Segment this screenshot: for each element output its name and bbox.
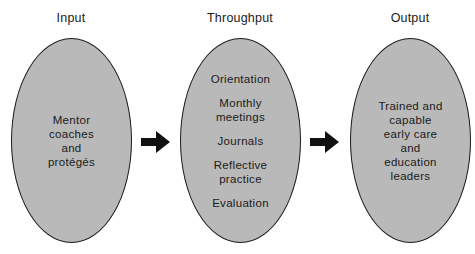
output-line: Trained and	[378, 99, 442, 113]
input-line: protégés	[48, 155, 95, 169]
output-line: early care	[384, 127, 438, 141]
output-line: capable	[389, 113, 431, 127]
throughput-item-journals: Journals	[218, 134, 264, 148]
input-line: Mentor	[53, 113, 91, 127]
output-title: Output	[345, 11, 475, 25]
item-text: Reflective	[214, 158, 268, 172]
item-text: Evaluation	[212, 196, 269, 210]
input-title: Input	[6, 11, 136, 25]
item-text: practice	[214, 172, 268, 186]
throughput-item-orientation: Orientation	[211, 72, 271, 86]
item-text: Journals	[218, 134, 264, 148]
output-line: education	[384, 155, 437, 169]
throughput-item-reflective-practice: Reflective practice	[214, 158, 268, 186]
throughput-item-monthly-meetings: Monthly meetings	[216, 96, 265, 124]
item-text: meetings	[216, 110, 265, 124]
item-text: Orientation	[211, 72, 271, 86]
throughput-ellipse: Orientation Monthly meetings Journals Re…	[180, 38, 301, 243]
output-line: and	[400, 141, 420, 155]
input-ellipse: Mentor coaches and protégés	[11, 38, 132, 243]
item-text: Monthly	[216, 96, 265, 110]
output-ellipse: Trained and capable early care and educa…	[350, 38, 471, 243]
throughput-item-evaluation: Evaluation	[212, 196, 269, 210]
right-arrow-icon	[310, 130, 340, 154]
right-arrow-icon	[141, 130, 171, 154]
output-line: leaders	[391, 169, 431, 183]
input-line: and	[61, 141, 81, 155]
throughput-title: Throughput	[175, 11, 305, 25]
input-line: coaches	[49, 127, 94, 141]
